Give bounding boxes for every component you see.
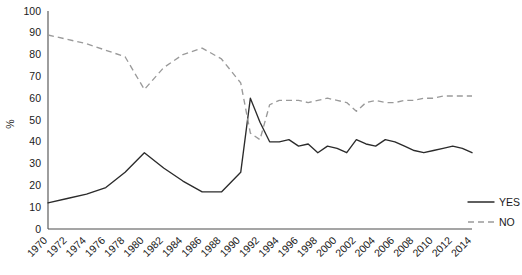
x-tick-label: 1992: [236, 234, 261, 259]
y-tick-label: 30: [29, 157, 41, 169]
x-tick-label: 2004: [352, 234, 377, 259]
x-tick-label: 1998: [294, 234, 319, 259]
x-tick-label: 2012: [429, 234, 454, 259]
x-tick-labels: 1970197219741976197819801982198419861988…: [24, 234, 473, 259]
y-tick-label: 80: [29, 48, 41, 60]
y-tick-label: 60: [29, 92, 41, 104]
x-tick-label: 1978: [102, 234, 127, 259]
y-tick-label: 10: [29, 201, 41, 213]
x-tick-label: 1994: [256, 234, 281, 259]
x-tick-label: 2008: [391, 234, 416, 259]
x-tick-label: 1990: [217, 234, 242, 259]
chart-legend: YESNO: [468, 196, 520, 228]
y-tick-label: 90: [29, 26, 41, 38]
x-axis-group: 1970197219741976197819801982198419861988…: [24, 229, 473, 259]
y-axis-title: %: [4, 119, 16, 128]
y-tick-label: 0: [35, 223, 41, 235]
y-tick-label: 50: [29, 114, 41, 126]
x-tick-label: 1996: [275, 234, 300, 259]
y-tick-label: 40: [29, 135, 41, 147]
series-line-yes: [48, 98, 472, 203]
x-tick-label: 2006: [371, 234, 396, 259]
x-tick-label: 2000: [314, 234, 339, 259]
x-tick-label: 1988: [198, 234, 223, 259]
y-tick-label: 70: [29, 70, 41, 82]
legend-label-yes: YES: [499, 196, 520, 208]
x-tick-label: 1970: [24, 234, 49, 259]
x-tick-label: 2010: [410, 234, 435, 259]
x-tick-label: 1984: [159, 234, 184, 259]
x-tick-label: 1974: [63, 234, 88, 259]
y-tick-label: 100: [23, 5, 41, 17]
x-tick-label: 1980: [121, 234, 146, 259]
y-tick-labels: 0102030405060708090100: [23, 5, 41, 235]
y-tick-label: 20: [29, 179, 41, 191]
x-tick-label: 1972: [44, 234, 69, 259]
line-chart: 0102030405060708090100 19701972197419761…: [0, 0, 522, 275]
x-tick-label: 1976: [82, 234, 107, 259]
x-tick-label: 1986: [179, 234, 204, 259]
series-group: [48, 35, 472, 203]
legend-label-no: NO: [499, 216, 515, 228]
chart-canvas: 0102030405060708090100 19701972197419761…: [0, 0, 522, 275]
x-tick-label: 1982: [140, 234, 165, 259]
x-tick-label: 2014: [448, 234, 473, 259]
series-line-no: [48, 35, 472, 140]
y-axis-group: 0102030405060708090100: [23, 5, 48, 235]
x-tick-label: 2002: [333, 234, 358, 259]
